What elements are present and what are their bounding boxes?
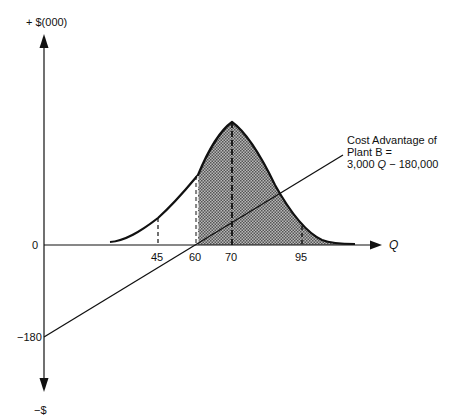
x-tick-45: 45 <box>151 251 163 263</box>
y-zero-label: 0 <box>32 239 38 251</box>
shaded-probability-region <box>198 122 355 245</box>
y-axis-bottom-label: −$ <box>34 404 47 416</box>
cost-advantage-annotation: Cost Advantage of Plant B = 3,000 Q − 18… <box>347 134 438 170</box>
y-intercept-label: −180 <box>17 331 42 343</box>
cost-advantage-line <box>44 155 343 337</box>
x-tick-60: 60 <box>189 251 201 263</box>
y-axis-down-arrow-icon <box>40 378 49 392</box>
x-tick-95: 95 <box>295 251 307 263</box>
y-axis-up-arrow-icon <box>40 34 49 48</box>
x-axis-arrow-icon <box>370 241 382 250</box>
x-tick-70: 70 <box>225 251 237 263</box>
diagram-canvas <box>0 0 456 420</box>
annotation-line-2: Plant B = <box>347 146 438 158</box>
y-axis-top-label: + $(000) <box>26 16 67 28</box>
x-axis-label: Q <box>389 239 398 251</box>
annotation-line-3: 3,000 Q − 180,000 <box>347 158 438 170</box>
annotation-line-1: Cost Advantage of <box>347 134 438 146</box>
